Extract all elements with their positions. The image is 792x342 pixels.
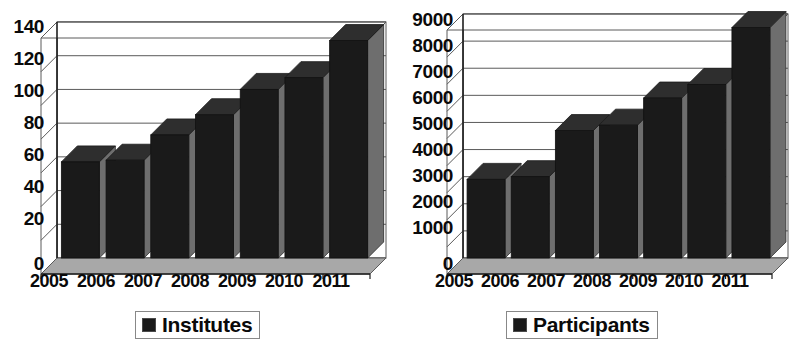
chart-panel-institutes: 140 120 100 80 60 40 20 0 2005 2006 2007… [0,0,396,342]
y-tick-label: 4000 [396,140,453,159]
legend-label: Institutes [162,314,252,336]
y-tick-label: 9000 [396,10,453,29]
x-tick-label: 2011 [296,272,366,290]
legend-institutes[interactable]: Institutes [135,311,260,339]
y-tick-label: 8000 [396,36,453,55]
y-tick-label: 7000 [396,62,453,81]
y-tick-label: 6000 [396,88,453,107]
y-tick-label: 100 [0,81,44,100]
chart-panel-participants: 9000 8000 7000 6000 5000 4000 3000 2000 … [396,0,792,342]
legend-swatch-icon [142,318,156,332]
legend-participants[interactable]: Participants [506,311,658,339]
legend-label: Participants [533,314,650,336]
x-tick-label: 2011 [696,272,764,290]
y-tick-label: 40 [0,177,44,196]
participants-bar-chart [396,0,792,300]
y-tick-label: 1000 [396,218,453,237]
y-tick-label: 5000 [396,114,453,133]
y-tick-label: 80 [0,113,44,132]
y-tick-label: 140 [0,17,44,36]
legend-swatch-icon [513,318,527,332]
y-tick-label: 20 [0,209,44,228]
y-tick-label: 60 [0,145,44,164]
institutes-bar-chart [0,0,396,300]
figure-canvas: 140 120 100 80 60 40 20 0 2005 2006 2007… [0,0,792,342]
y-tick-label: 2000 [396,192,453,211]
y-tick-label: 120 [0,49,44,68]
y-tick-label: 3000 [396,166,453,185]
